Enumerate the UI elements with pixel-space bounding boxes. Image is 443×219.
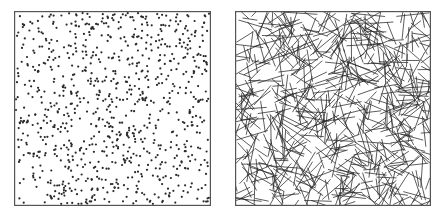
point-pattern-plot — [14, 11, 211, 206]
segment-pattern-panel — [235, 11, 431, 206]
point-pattern-panel — [14, 11, 211, 206]
segment-pattern-plot — [235, 11, 431, 206]
scatter-points — [15, 12, 210, 205]
plot-frame — [15, 12, 211, 206]
line-segments — [235, 11, 431, 206]
